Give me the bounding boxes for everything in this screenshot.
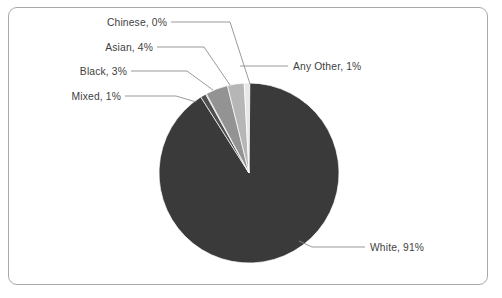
leader-line-chinese — [171, 22, 250, 84]
pie-label-black: Black, 3% — [80, 66, 127, 77]
leader-line-white — [299, 241, 365, 247]
pie-label-any-other: Any Other, 1% — [293, 61, 361, 72]
pie-label-mixed: Mixed, 1% — [72, 91, 121, 102]
pie-label-chinese: Chinese, 0% — [107, 17, 167, 28]
chart-page: Chinese, 0% Asian, 4% Black, 3% Mixed, 1… — [0, 0, 502, 298]
pie-label-asian: Asian, 4% — [105, 42, 153, 53]
leader-line-black — [131, 71, 213, 90]
leader-line-asian — [157, 47, 230, 85]
leader-line-mixed — [125, 96, 196, 102]
pie-label-white: White, 91% — [370, 242, 424, 253]
pie-slices — [159, 83, 339, 263]
pie-chart: Chinese, 0% Asian, 4% Black, 3% Mixed, 1… — [0, 0, 502, 298]
